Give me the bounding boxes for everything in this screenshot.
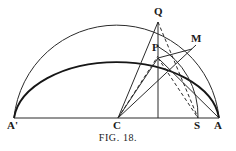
dashed-line-C-to-P: [118, 56, 158, 118]
dashed-line-P-to-S: [158, 58, 198, 118]
line-C-to-Q: [118, 22, 158, 118]
line-C-to-M-extended: [118, 45, 196, 118]
figure-caption: FIG. 18.: [0, 132, 236, 143]
caption-text: FIG. 18.: [99, 132, 137, 143]
line-C-to-P: [118, 58, 158, 118]
inner-ellipse-arc: [14, 62, 219, 118]
point-label-s: S: [194, 120, 200, 131]
figure-container: A' C S A Q P M FIG. 18.: [0, 0, 236, 151]
point-label-p: P: [152, 42, 159, 53]
point-label-a: A: [214, 120, 222, 131]
point-label-c: C: [113, 120, 121, 131]
point-label-q: Q: [154, 6, 163, 17]
point-label-m: M: [191, 33, 201, 44]
point-label-a-prime: A': [7, 120, 18, 131]
line-P-to-A: [158, 58, 219, 118]
